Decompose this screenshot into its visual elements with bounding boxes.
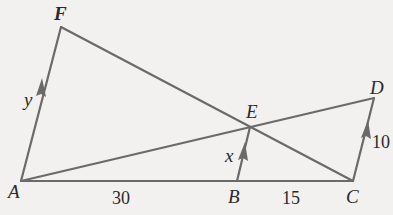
point-label-F: F [53, 3, 67, 24]
measure-label-AB: 30 [112, 188, 130, 208]
segment-AD [21, 98, 374, 181]
point-label-D: D [369, 77, 384, 98]
segment-CD [353, 98, 374, 181]
point-label-E: E [245, 101, 258, 122]
point-label-C: C [346, 186, 359, 207]
measure-label-CD: 10 [372, 132, 390, 152]
point-label-B: B [228, 186, 240, 207]
point-label-A: A [6, 181, 20, 202]
segment-FC [61, 27, 353, 181]
measure-label-BC: 15 [282, 188, 300, 208]
geometry-diagram: F A E B C D y x 10 30 15 [0, 0, 393, 215]
measure-label-y: y [22, 89, 33, 110]
measure-label-x: x [224, 145, 234, 166]
parallel-arrow-icon-CD [361, 120, 371, 139]
